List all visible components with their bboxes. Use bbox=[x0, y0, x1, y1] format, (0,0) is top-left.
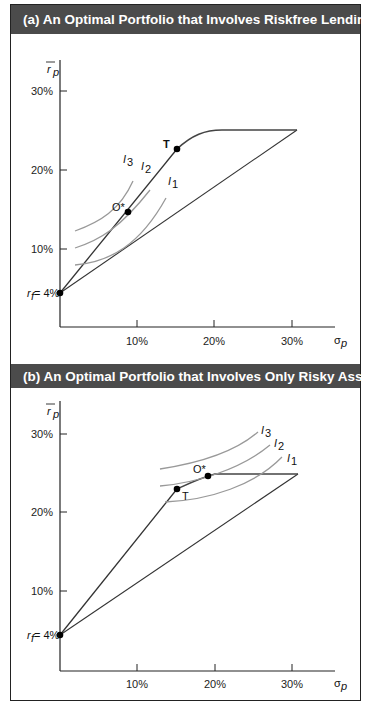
svg-text:p: p bbox=[340, 337, 347, 349]
svg-text:1: 1 bbox=[172, 178, 178, 190]
o-star-point bbox=[125, 209, 132, 216]
y-axis-label: r bbox=[47, 63, 52, 75]
y-axis-label: r bbox=[47, 405, 52, 417]
indifference-curve-i3 bbox=[160, 432, 258, 469]
y-tick-20: 20% bbox=[31, 164, 53, 176]
t-point bbox=[174, 486, 181, 493]
x-axis-label: σ bbox=[334, 677, 341, 689]
indifference-curve-i2 bbox=[160, 445, 270, 486]
svg-text:3: 3 bbox=[265, 427, 271, 439]
lending-line bbox=[60, 489, 177, 635]
x-tick-30: 30% bbox=[281, 335, 303, 347]
x-tick-10: 10% bbox=[126, 678, 148, 690]
svg-text:1: 1 bbox=[291, 455, 297, 467]
label-i2: I bbox=[141, 160, 144, 172]
label-i3: I bbox=[123, 153, 126, 165]
feasible-lower-boundary bbox=[60, 130, 297, 293]
feasible-lower-boundary bbox=[60, 474, 298, 635]
x-tick-30: 30% bbox=[281, 678, 303, 690]
svg-text:2: 2 bbox=[145, 163, 151, 175]
svg-text:3: 3 bbox=[127, 156, 133, 168]
label-i1: I bbox=[287, 452, 290, 464]
x-tick-20: 20% bbox=[203, 335, 225, 347]
t-label: T bbox=[163, 138, 170, 150]
svg-text:p: p bbox=[340, 680, 347, 692]
y-tick-10: 10% bbox=[31, 243, 53, 255]
charts-canvas: 30% 20% 10% 10% 20% 30% r p σ p I 3 I 2 … bbox=[0, 0, 372, 714]
label-i2: I bbox=[274, 437, 277, 449]
lending-line bbox=[60, 149, 177, 293]
rf-value: = 4% bbox=[34, 287, 60, 299]
efficient-frontier bbox=[177, 130, 297, 149]
y-tick-10: 10% bbox=[31, 585, 53, 597]
rf-value: = 4% bbox=[34, 629, 60, 641]
label-i3: I bbox=[261, 424, 264, 436]
o-star-label: O* bbox=[193, 463, 207, 475]
y-tick-20: 20% bbox=[31, 506, 53, 518]
x-tick-10: 10% bbox=[126, 335, 148, 347]
y-tick-30: 30% bbox=[31, 85, 53, 97]
panel-b-chart: 30% 20% 10% 10% 20% 30% r p σ p I 3 I 2 … bbox=[27, 401, 347, 692]
t-point bbox=[174, 146, 181, 153]
svg-text:p: p bbox=[52, 66, 59, 78]
svg-text:p: p bbox=[52, 408, 59, 420]
y-tick-30: 30% bbox=[31, 428, 53, 440]
svg-text:2: 2 bbox=[278, 440, 284, 452]
x-axis-label: σ bbox=[334, 334, 341, 346]
label-i1: I bbox=[168, 175, 171, 187]
o-star-label: O* bbox=[112, 201, 126, 213]
x-tick-20: 20% bbox=[204, 678, 226, 690]
t-label: T bbox=[182, 490, 189, 502]
panel-a-chart: 30% 20% 10% 10% 20% 30% r p σ p I 3 I 2 … bbox=[27, 60, 347, 349]
